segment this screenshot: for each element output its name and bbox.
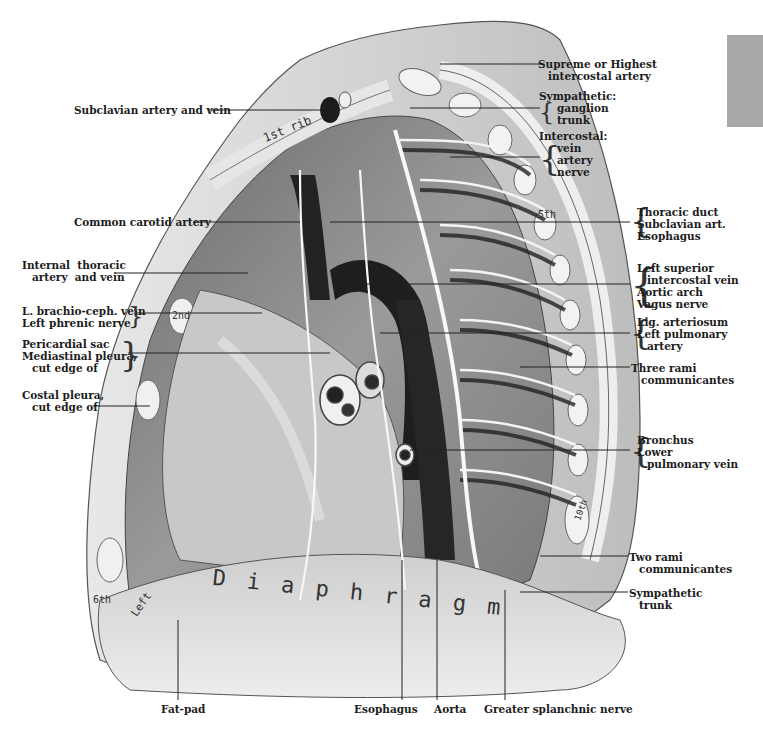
label-fat-pad: Fat-pad bbox=[161, 703, 205, 715]
label-subclavian: Subclavian artery and vein bbox=[74, 104, 231, 116]
page-edge-tab bbox=[727, 35, 763, 127]
label-supreme-intercostal: Supreme or Highestintercostal artery bbox=[538, 58, 657, 82]
brace: } bbox=[120, 334, 142, 374]
label-internal-thoracic: Internal thoracicartery and vein bbox=[22, 259, 126, 283]
label-bronchus: BronchusLowerpulmonary vein bbox=[637, 434, 738, 470]
label-costal-pleura: Costal pleura,cut edge of bbox=[22, 389, 104, 413]
label-greater-splanchnic: Greater splanchnic nerve bbox=[484, 703, 633, 715]
brace: { bbox=[539, 138, 561, 178]
label-aorta: Aorta bbox=[434, 703, 466, 715]
label-sympathetic-trunk: Sympathetictrunk bbox=[629, 587, 702, 611]
label-brachiocephalic: L. brachio-ceph. veinLeft phrenic nerve bbox=[22, 305, 146, 329]
label-thoracic-duct: Thoracic ductSubclavian art.Esophagus bbox=[637, 206, 726, 242]
label-esophagus-bottom: Esophagus bbox=[354, 703, 418, 715]
rib-label-5th: 5th bbox=[538, 209, 556, 220]
label-two-rami: Two ramicommunicantes bbox=[629, 551, 732, 575]
brace: } bbox=[128, 302, 143, 330]
rib-label-2nd: 2nd bbox=[172, 310, 190, 321]
label-three-rami: Three ramicommunicantes bbox=[631, 362, 734, 386]
rib-label-6th: 6th bbox=[93, 594, 111, 605]
brace: { bbox=[539, 98, 554, 126]
label-common-carotid: Common carotid artery bbox=[74, 216, 211, 228]
label-lig-arteriosum: Lig. arteriosumLeft pulmonaryartery bbox=[637, 316, 728, 352]
label-left-superior-intercostal: Left superiorintercostal veinAortic arch… bbox=[637, 262, 739, 310]
